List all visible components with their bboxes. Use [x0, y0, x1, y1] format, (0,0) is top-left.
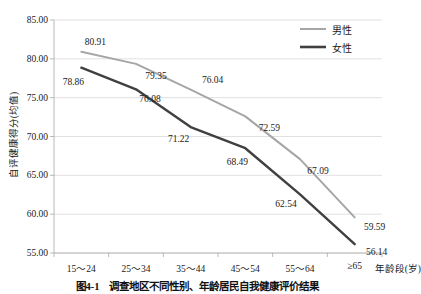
data-point-label: 78.86: [63, 77, 84, 87]
data-point-label: 76.04: [202, 75, 223, 85]
legend-label: 女性: [332, 40, 352, 55]
x-axis-title: 年龄段(岁): [375, 261, 421, 275]
y-tick-label: 65.00: [6, 170, 48, 180]
legend-swatches: [300, 29, 326, 47]
data-point-label: 76.08: [139, 94, 160, 104]
y-tick-label: 75.00: [6, 93, 48, 103]
data-point-label: 62.54: [275, 199, 296, 209]
series-line: [81, 68, 354, 244]
y-tick-label: 80.00: [6, 54, 48, 64]
data-point-label: 80.91: [85, 37, 106, 47]
x-tick-label: 45～54: [231, 261, 260, 275]
data-point-label: 79.35: [145, 71, 166, 81]
figure-caption: 图4-1 调查地区不同性别、年龄居民自我健康评价结果: [0, 278, 395, 293]
data-point-label: 71.22: [168, 134, 189, 144]
y-tick-label: 60.00: [6, 209, 48, 219]
x-tick-label: 15～24: [67, 261, 96, 275]
x-tick-label: 25～34: [122, 261, 151, 275]
data-point-label: 67.09: [307, 166, 328, 176]
data-point-label: 56.14: [366, 247, 387, 257]
legend-label: 男性: [332, 22, 352, 37]
y-tick-label: 55.00: [6, 248, 48, 258]
y-tick-label: 85.00: [6, 15, 48, 25]
x-tick-label: 35～44: [176, 261, 205, 275]
data-point-label: 68.49: [227, 157, 248, 167]
data-point-label: 72.59: [259, 123, 280, 133]
y-tick-label: 70.00: [6, 132, 48, 142]
x-tick-label: 55～64: [286, 261, 315, 275]
x-tick-label: ≥65: [347, 261, 362, 271]
data-point-label: 59.59: [364, 222, 385, 232]
chart-plot-area: 自评健康得分(均值) 85.0080.0075.0070.0065.0060.0…: [0, 0, 395, 276]
